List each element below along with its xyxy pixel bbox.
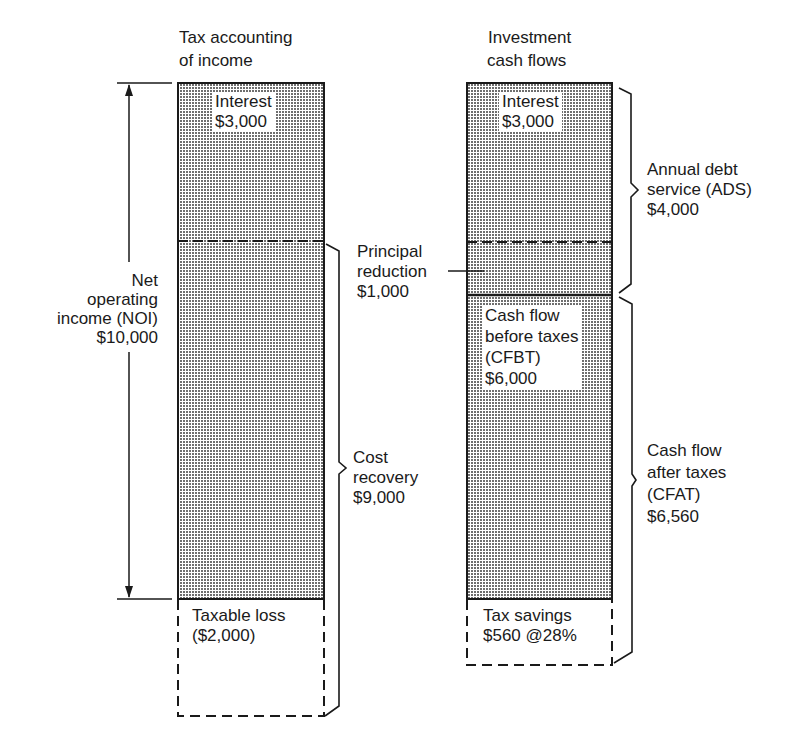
right-column-title-line2: cash flows (487, 51, 566, 71)
noi-line1: Net (40, 271, 158, 290)
left-interest-text: Interest (215, 92, 272, 112)
cfbt-line2: before taxes (485, 326, 579, 347)
principal-value: $1,000 (357, 282, 427, 302)
cfbt-line1: Cash flow (485, 305, 579, 326)
left-column-title-line2: of income (179, 51, 253, 71)
noi-arrow-up-icon (125, 84, 133, 96)
ads-brace (619, 88, 638, 293)
principal-line2: reduction (357, 262, 427, 282)
ads-line1: Annual debt (647, 160, 752, 180)
cfat-brace (614, 297, 636, 663)
left-interest-value: $3,000 (215, 112, 272, 132)
noi-label: Net operating income (NOI) $10,000 (40, 271, 158, 347)
cost-recovery-label: Cost recovery $9,000 (353, 448, 418, 508)
cfat-line1: Cash flow (647, 440, 726, 462)
cost-recovery-line2: recovery (353, 468, 418, 488)
ads-value: $4,000 (647, 200, 752, 220)
right-column-title-line1: Investment (488, 28, 571, 48)
cost-recovery-value: $9,000 (353, 488, 418, 508)
cfat-label: Cash flow after taxes (CFAT) $6,560 (647, 440, 726, 528)
noi-line2: operating (40, 290, 158, 309)
cost-recovery-line1: Cost (353, 448, 418, 468)
cost-recovery-brace (325, 244, 346, 716)
cfbt-value: $6,000 (485, 368, 579, 389)
principal-reduction-label: Principal reduction $1,000 (357, 242, 427, 302)
taxable-loss-text: Taxable loss (192, 606, 286, 626)
cfat-line2: after taxes (647, 462, 726, 484)
noi-box (178, 83, 324, 599)
taxable-loss-value: ($2,000) (192, 626, 286, 646)
diagram-canvas (0, 0, 804, 749)
cfbt-line3: (CFBT) (485, 347, 579, 368)
cfat-line3: (CFAT) (647, 484, 726, 506)
ads-line2: service (ADS) (647, 180, 752, 200)
tax-savings-value: $560 @28% (483, 626, 577, 646)
ads-label: Annual debt service (ADS) $4,000 (647, 160, 752, 220)
noi-value: $10,000 (40, 328, 158, 347)
noi-arrow-down-icon (125, 586, 133, 598)
tax-savings-label: Tax savings $560 @28% (483, 606, 577, 646)
left-column-title-line1: Tax accounting (179, 28, 292, 48)
noi-line3: income (NOI) (40, 309, 158, 328)
cfbt-label: Cash flow before taxes (CFBT) $6,000 (482, 305, 582, 389)
cfat-value: $6,560 (647, 506, 726, 528)
tax-savings-text: Tax savings (483, 606, 577, 626)
taxable-loss-label: Taxable loss ($2,000) (192, 606, 286, 646)
right-interest-text: Interest (502, 92, 559, 112)
right-interest-value: $3,000 (502, 112, 559, 132)
principal-line1: Principal (357, 242, 427, 262)
right-interest-label: Interest $3,000 (499, 92, 562, 132)
left-interest-label: Interest $3,000 (212, 92, 275, 132)
